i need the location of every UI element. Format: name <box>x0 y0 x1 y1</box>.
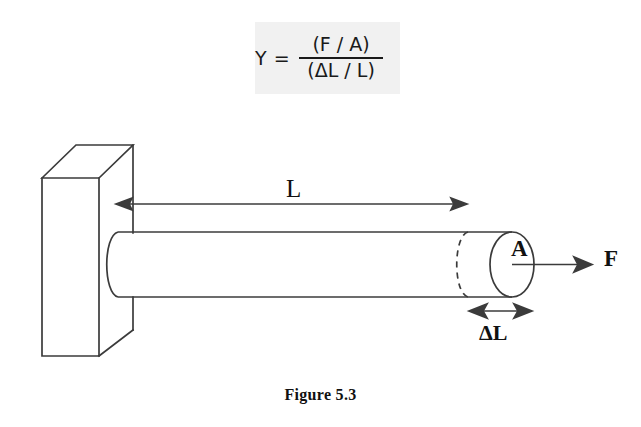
figure-caption: Figure 5.3 <box>0 386 641 404</box>
original-end-dashed-arc <box>457 232 468 297</box>
elongation-dimension-arrow <box>469 304 532 318</box>
rod-wall-diagram <box>0 0 641 427</box>
wall-left-face <box>42 178 99 356</box>
length-arrow-head-right <box>451 198 467 210</box>
length-arrow-head-left <box>116 198 132 210</box>
rod-left-cap <box>107 232 118 297</box>
wall-top-face <box>42 145 133 178</box>
wall-slab <box>42 145 133 356</box>
figure-container: Y = (F / A) (ΔL / L) <box>0 0 641 427</box>
rod-cylinder <box>107 232 534 297</box>
length-label: L <box>286 176 301 201</box>
wall-bottom-diagonal-edge <box>99 330 133 356</box>
force-label: F <box>604 247 618 270</box>
elongation-label: ΔL <box>479 322 507 344</box>
area-label: A <box>511 237 528 260</box>
